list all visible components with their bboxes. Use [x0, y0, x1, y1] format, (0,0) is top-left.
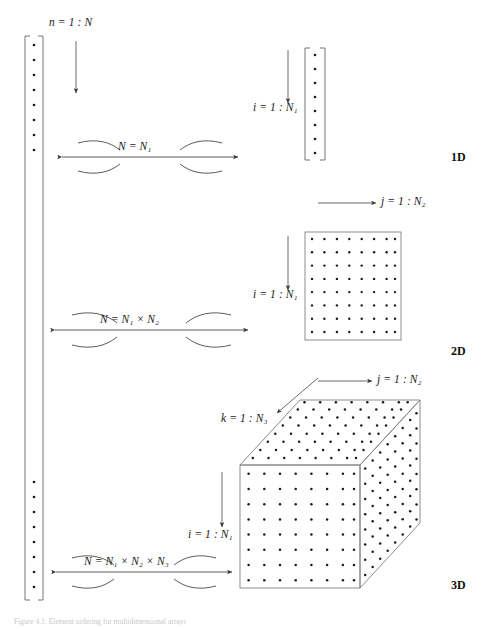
linear-column-dots-bottom — [33, 481, 36, 589]
cube-front-face — [240, 465, 360, 588]
label-k-index-3d: k = 1 : N₃ — [221, 412, 268, 424]
label-equivalence-2d: N = N₁ × N₂ — [100, 313, 159, 325]
cube-front-dots — [247, 473, 355, 582]
label-j-index-3d: j = 1 : N₂ — [377, 373, 422, 385]
dimension-label-1d: 1D — [451, 150, 466, 165]
figure-canvas: n = 1 : N N = N₁ i = 1 : N₁ 1D j = 1 : N… — [0, 0, 500, 629]
vector-1d-brackets — [305, 48, 325, 160]
figure-caption: Figure 4.1: Element ordering for multidi… — [14, 617, 186, 629]
label-i-index-1d: i = 1 : N₁ — [253, 101, 298, 113]
label-i-index-3d: i = 1 : N₁ — [188, 528, 233, 540]
vector-1d-dots — [314, 54, 317, 155]
grid-2d-border — [305, 232, 401, 340]
label-i-index-2d: i = 1 : N₁ — [253, 288, 298, 300]
linear-column-dots-top — [33, 44, 36, 152]
k-index-arrow-3d — [277, 378, 318, 413]
dimension-label-2d: 2D — [451, 344, 466, 359]
diagram-svg — [0, 0, 500, 629]
label-equivalence-3d: N = N₁ × N₂ × N₃ — [84, 555, 169, 567]
cube-top-dots — [252, 401, 409, 459]
cube-right-dots — [364, 412, 418, 576]
cube-right-face — [360, 400, 420, 588]
label-n-index: n = 1 : N — [49, 16, 92, 28]
label-equivalence-1d: N = N₁ — [118, 140, 151, 152]
label-j-index-2d: j = 1 : N₂ — [381, 195, 426, 207]
dimension-label-3d: 3D — [451, 578, 466, 593]
grid-2d-dots — [311, 238, 396, 333]
